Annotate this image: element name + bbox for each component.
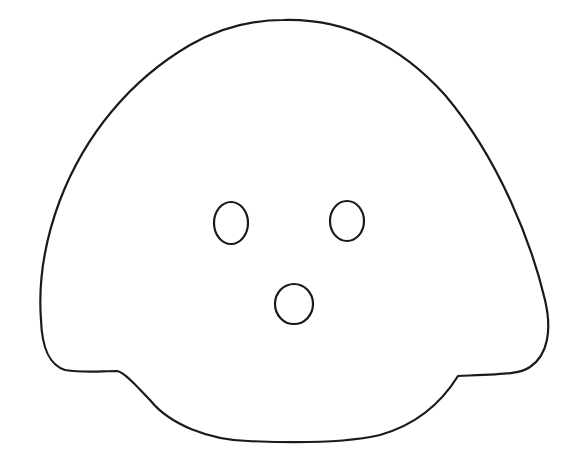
face-drawing	[0, 0, 580, 457]
right-eye-circle	[330, 201, 364, 241]
mouth-circle	[275, 284, 313, 324]
drawing-canvas	[0, 0, 580, 457]
left-eye-circle	[214, 202, 248, 244]
head-outline	[40, 20, 548, 442]
